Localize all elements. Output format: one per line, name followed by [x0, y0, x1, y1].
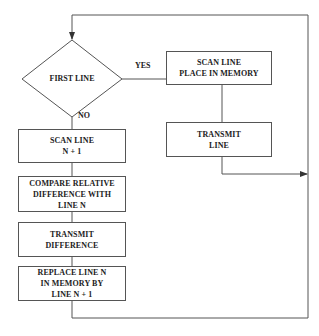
no-label: NO	[78, 111, 90, 120]
node-transmit-line: TRANSMIT LINE	[166, 122, 272, 157]
connector-transmit-line-to-loop	[222, 156, 307, 174]
node-scan-line-n-plus-1: SCAN LINE N + 1	[18, 129, 126, 163]
node-compare-difference: COMPARE RELATIVE DIFFERENCE WITH LINE N	[18, 176, 126, 212]
yes-label: YES	[135, 61, 151, 70]
node-scan-place-in-memory: SCAN LINE PLACE IN MEMORY	[166, 51, 272, 85]
decision-label: FIRST LINE	[32, 74, 112, 83]
node-transmit-difference: TRANSMIT DIFFERENCE	[18, 222, 126, 257]
node-replace-line: REPLACE LINE N IN MEMORY BY LINE N + 1	[18, 266, 126, 301]
connector-replace-to-loop	[72, 300, 308, 318]
